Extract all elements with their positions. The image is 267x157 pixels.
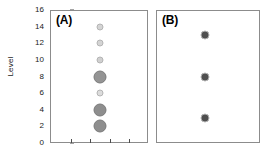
panel-a-label: (A): [56, 13, 72, 27]
y-axis-label: Level: [6, 39, 15, 95]
x-tick-mark: [90, 139, 91, 143]
y-axis-tick-labels: 1614121086420: [24, 0, 44, 157]
x-tick-mark: [129, 139, 130, 143]
y-tick-label: 0: [24, 139, 44, 147]
y-tick-label: 14: [24, 23, 44, 31]
y-tick-label: 10: [24, 56, 44, 64]
data-point: [200, 72, 209, 81]
x-tick-mark: [71, 139, 72, 143]
y-tick-label: 4: [24, 106, 44, 114]
y-tick-label: 12: [24, 39, 44, 47]
data-point: [94, 120, 107, 133]
y-tick-label: 16: [24, 6, 44, 14]
data-point: [200, 30, 209, 39]
panel-a: (A): [50, 10, 148, 143]
y-tick-label: 8: [24, 73, 44, 81]
y-tick-label: 6: [24, 89, 44, 97]
data-point: [97, 23, 104, 30]
data-point: [97, 90, 104, 97]
data-point: [94, 70, 107, 83]
data-point: [200, 114, 209, 123]
x-tick-mark: [110, 139, 111, 143]
figure-scatter-panels: Level 1614121086420 (A) (B): [0, 0, 267, 157]
data-point: [94, 103, 107, 116]
panel-b-label: (B): [162, 13, 178, 27]
data-point: [97, 56, 104, 63]
y-tick-label: 2: [24, 122, 44, 130]
data-point: [97, 40, 104, 47]
panel-b: (B): [156, 10, 260, 143]
